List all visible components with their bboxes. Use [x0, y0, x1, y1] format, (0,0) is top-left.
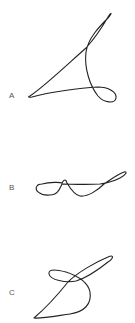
curve-a [29, 13, 116, 102]
curve-b [36, 172, 126, 196]
curve-c [34, 256, 113, 318]
curves-canvas [0, 0, 135, 323]
